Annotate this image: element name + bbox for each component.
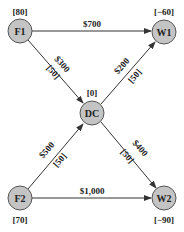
edge-capacity: [50] [51,151,68,169]
node-f1: F1 [80] [8,7,32,43]
edge-capacity: [50] [119,147,136,165]
node-supply: [−90] [154,215,174,225]
edge-f2-w2: $1,000 [32,186,151,198]
edge-cost: $1,000 [80,186,105,196]
edge-dc-w2: $400 [50] [101,122,156,188]
node-label: F1 [14,26,25,37]
edge-capacity: [50] [126,67,143,85]
node-supply: [−60] [154,7,174,17]
edge-cost: $500 [37,140,57,161]
node-supply: [80] [13,7,28,17]
node-f2: F2 [70] [8,186,32,225]
node-label: W2 [157,193,172,204]
node-label: W1 [157,27,172,38]
node-dc: DC [0] [80,88,104,125]
edge-f2-dc: $500 [50] [28,124,83,189]
edge-cost: $700 [83,19,102,29]
node-w1: W1 [−60] [152,7,176,44]
node-supply: [0] [87,88,98,98]
edge-f1-w1: $700 [32,19,151,31]
node-supply: [70] [13,215,28,225]
node-label: F2 [14,193,25,204]
node-w2: W2 [−90] [152,186,176,225]
edge-cost: $200 [112,56,132,77]
edge-dc-w1: $200 [50] [101,42,155,104]
node-label: DC [85,108,99,119]
network-diagram: $700 $300 [50] $200 [50] $500 [50] $400 … [0,0,184,232]
edge-f1-dc: $300 [50] [28,40,83,103]
